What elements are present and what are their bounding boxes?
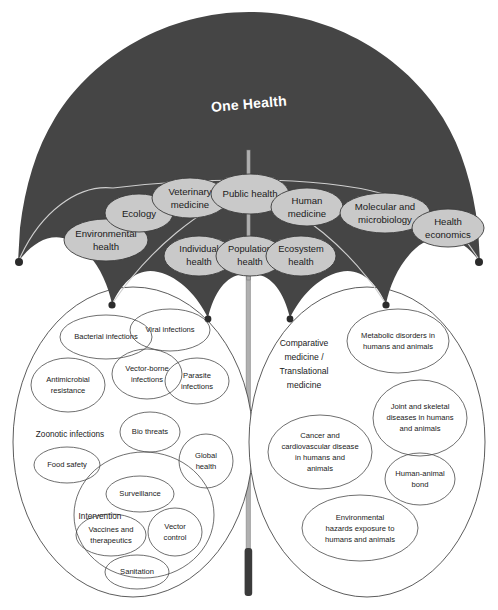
bubble-label-line2: bond <box>412 480 429 489</box>
bubble-label-line3: humans and animals <box>325 535 395 544</box>
canopy-label-line1: Human <box>292 195 323 206</box>
free-label-comparative-medicine-line2: medicine / <box>284 352 324 362</box>
canopy-label-line1: Health <box>434 216 462 227</box>
free-label-zoonotic-infections: Zoonotic infections <box>36 430 104 439</box>
bubble-label-line1: Vector <box>164 522 186 531</box>
bubble-label-line2: hazards exposure to <box>326 524 395 533</box>
bubble-label-line1: Antimicrobial <box>46 375 90 384</box>
canopy-label-line1: Molecular and <box>355 201 415 212</box>
bubble-label-line2: resistance <box>51 386 86 395</box>
core-label-line1: Ecosystem <box>278 244 324 254</box>
ellipse-shape <box>266 236 336 276</box>
bubble-label-line1: Environmental <box>336 513 385 522</box>
canopy-label-line2: microbiology <box>358 214 412 225</box>
bubble-label-line1: Food safety <box>47 460 87 469</box>
bubble-label-line3: in humans and <box>295 453 345 462</box>
bubble-label-line1: Bacterial infections <box>74 332 138 341</box>
canopy-tip-5 <box>382 301 389 308</box>
bubble-label-line1: Vector-borne <box>125 364 168 373</box>
bubble-label-line2: infections <box>131 375 163 384</box>
canopy-label-line2: health <box>93 241 119 252</box>
bubble-label-line2: diseases in humans <box>386 413 453 422</box>
core-label-line2: health <box>186 257 211 267</box>
core-label-line1: Individual <box>179 244 218 254</box>
bubble-label-line1: Cancer and <box>300 431 339 440</box>
core-label-line1: Population <box>228 244 272 254</box>
core-health-levels-group: Individual health Population health Ecos… <box>164 236 336 276</box>
bubble-label-line2: infections <box>181 382 213 391</box>
canopy-label-line1: Veterinary <box>168 186 211 197</box>
bubble-label-line1: Vaccines and <box>88 525 133 534</box>
canopy-label-line1: Public health <box>223 188 278 199</box>
canopy-tip-2 <box>108 301 115 308</box>
bubble-label-line2: cardiovascular disease <box>281 442 358 451</box>
canopy-ellipse-human-medicine[interactable]: Human medicine <box>271 188 343 226</box>
bubble-label-line1: Bio threats <box>132 427 169 436</box>
canopy-label-line2: medicine <box>171 199 209 210</box>
bubble-label-line4: animals <box>307 464 333 473</box>
bubble-label-line1: Sanitation <box>120 567 154 576</box>
bubble-label-line2: health <box>196 462 217 471</box>
free-label-intervention: Intervention <box>79 512 122 521</box>
canopy-tip-6 <box>475 258 483 266</box>
bubble-label-line3: and animals <box>400 424 441 433</box>
one-health-umbrella-diagram: One Health Environmental health Ecology … <box>0 0 498 610</box>
bubble-label-line2: control <box>164 533 187 542</box>
free-label-comparative-medicine-line4: medicine <box>287 380 322 390</box>
canopy-tip-3 <box>205 316 212 323</box>
canopy-label-line2: economics <box>425 229 471 240</box>
bubble-label-line1: Joint and skeletal <box>391 402 450 411</box>
canopy-ellipse-health-economics[interactable]: Health economics <box>412 209 484 247</box>
bubble-label-line1: Viral infections <box>145 325 194 334</box>
core-ellipse-ecosystem-health[interactable]: Ecosystem health <box>266 236 336 276</box>
canopy-tip-4 <box>287 316 294 323</box>
core-label-line2: health <box>237 257 262 267</box>
bubble-label-line1: Global <box>195 451 217 460</box>
canopy-label-line1: Ecology <box>122 208 156 219</box>
free-label-comparative-medicine-line3: Translational <box>280 366 329 376</box>
bubble-label-line2: humans and animals <box>363 342 433 351</box>
core-label-line2: health <box>288 257 313 267</box>
umbrella-handle-grip <box>245 548 253 596</box>
bubble-label-line1: Surveillance <box>119 489 160 498</box>
canopy-label-line2: medicine <box>288 208 326 219</box>
bubble-label-line1: Parasite <box>183 371 211 380</box>
free-label-comparative-medicine-line1: Comparative <box>280 338 329 348</box>
bubble-label-line2: therapeutics <box>90 536 132 545</box>
bubble-label-line1: Metabolic disorders in <box>361 331 435 340</box>
canopy-tip-1 <box>15 258 23 266</box>
bubble-label-line1: Human-animal <box>395 469 445 478</box>
